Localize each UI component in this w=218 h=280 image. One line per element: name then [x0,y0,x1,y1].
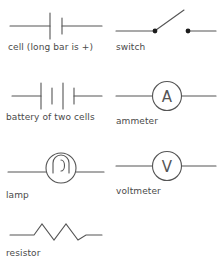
symbol-label-battery: battery of two cells [6,112,95,123]
symbol-label-lamp: lamp [6,190,29,201]
switch-symbol [116,6,216,40]
ammeter-symbol: A [116,76,216,116]
lamp-symbol [6,146,106,190]
symbol-label-ammeter: ammeter [116,116,158,127]
lamp-filament [53,155,69,173]
resistor-zigzag [10,224,102,240]
symbol-label-switch: switch [116,42,145,53]
battery-symbol [6,76,106,110]
ammeter-letter: A [162,88,173,106]
symbol-label-resistor: resistor [6,248,40,259]
symbol-label-cell: cell (long bar is +) [8,42,93,53]
lamp-filament-inner [61,160,65,171]
switch-contact-right-dot [186,29,191,34]
switch-contact-left-dot [153,29,158,34]
voltmeter-symbol: V [116,146,216,186]
voltmeter-letter: V [162,158,173,176]
cell-symbol [6,6,106,40]
resistor-symbol [6,218,106,248]
circuit-symbols-diagram: cell (long bar is +) switch [0,0,218,280]
symbol-label-voltmeter: voltmeter [116,186,161,197]
